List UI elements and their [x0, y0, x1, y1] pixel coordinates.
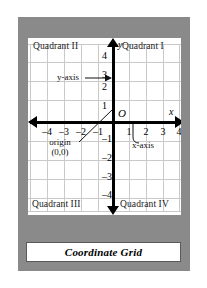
quadrant-2-label: Quadrant II [33, 41, 78, 51]
quadrant-3-label: Quadrant III [32, 199, 80, 209]
caption-box: Coordinate Grid [26, 242, 181, 262]
y-tick-label--2: –2 [102, 152, 112, 163]
x-axis-arrow-left-icon [28, 116, 37, 128]
x-axis-letter: x [169, 106, 173, 117]
gridline-horizontal [28, 211, 181, 212]
figure-frame: Quadrant II Quadrant I Quadrant III Quad… [18, 17, 190, 271]
y-tick-label-4: 4 [102, 50, 112, 61]
y-tick-label--3: –3 [102, 171, 112, 182]
coordinate-grid-panel: Quadrant II Quadrant I Quadrant III Quad… [28, 38, 181, 215]
x-tick-label--3: –3 [57, 126, 71, 137]
origin-annotation-coords: (0,0) [51, 147, 68, 157]
y-tick-label--4: –4 [102, 189, 112, 200]
origin-marker: O [118, 107, 126, 119]
quadrant-1-label: Quadrant I [122, 41, 164, 51]
y-axis-annotation-label: y-axis [57, 72, 79, 82]
caption-text: Coordinate Grid [65, 246, 142, 258]
x-tick-label-4: 4 [172, 126, 181, 137]
y-axis-arrow-down-icon [107, 206, 119, 215]
gridline-horizontal [28, 62, 181, 63]
origin-annotation-label: origin (0,0) [40, 137, 80, 157]
x-axis-leader-curve [122, 124, 142, 146]
x-tick-label--4: –4 [40, 126, 54, 137]
origin-annotation-name: origin [49, 137, 71, 147]
origin-leader-line [79, 109, 115, 143]
y-axis-leader-arrow [85, 72, 113, 86]
quadrant-4-label: Quadrant IV [120, 199, 169, 209]
gridline-vertical [30, 44, 31, 212]
x-tick-label-3: 3 [156, 126, 170, 137]
y-axis-letter: y [118, 39, 122, 50]
